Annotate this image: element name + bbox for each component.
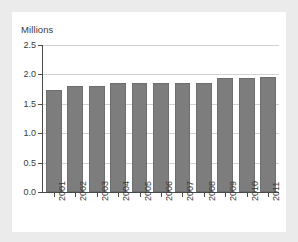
x-tick-label: 2003	[101, 181, 110, 201]
bar	[89, 86, 105, 192]
x-tick-mark	[182, 193, 183, 197]
x-tick-mark	[97, 193, 98, 197]
bar	[110, 83, 126, 192]
gridline	[43, 74, 279, 75]
y-axis-tick-labels: 0.00.51.01.52.02.5	[8, 0, 36, 242]
bar	[217, 78, 233, 192]
x-tick-label: 2001	[58, 181, 67, 201]
x-tick-mark	[140, 193, 141, 197]
y-tick-label: 2.5	[10, 41, 36, 50]
y-tick-label: 2.0	[10, 70, 36, 79]
x-tick-label: 2008	[208, 181, 217, 201]
bar	[132, 83, 148, 192]
y-tick-mark	[38, 192, 42, 193]
y-tick-mark	[38, 163, 42, 164]
x-tick-mark	[225, 193, 226, 197]
x-tick-label: 2004	[122, 181, 131, 201]
y-tick-label: 1.5	[10, 100, 36, 109]
x-tick-label: 2010	[251, 181, 260, 201]
x-tick-mark	[161, 193, 162, 197]
y-tick-mark	[38, 74, 42, 75]
x-tick-mark	[75, 193, 76, 197]
x-tick-mark	[204, 193, 205, 197]
x-tick-mark	[54, 193, 55, 197]
x-tick-label: 2009	[229, 181, 238, 201]
x-tick-label: 2005	[144, 181, 153, 201]
x-tick-mark	[268, 193, 269, 197]
y-tick-label: 0.5	[10, 159, 36, 168]
gridline	[43, 45, 279, 46]
bar	[175, 83, 191, 192]
x-tick-label: 2007	[186, 181, 195, 201]
bar	[153, 83, 169, 192]
y-tick-mark	[38, 133, 42, 134]
y-axis-line	[42, 45, 43, 193]
bar	[239, 78, 255, 192]
plot-area	[43, 45, 279, 192]
x-tick-label: 2011	[272, 182, 281, 201]
y-tick-label: 1.0	[10, 129, 36, 138]
y-tick-label: 0.0	[10, 188, 36, 197]
bar	[67, 86, 83, 192]
x-tick-label: 2006	[165, 181, 174, 201]
y-tick-mark	[38, 104, 42, 105]
bar	[260, 77, 276, 192]
y-tick-mark	[38, 45, 42, 46]
bar	[46, 90, 62, 192]
x-tick-mark	[247, 193, 248, 197]
x-tick-label: 2002	[79, 181, 88, 201]
chart-figure: Millions 0.00.51.01.52.02.5 200120022003…	[0, 0, 298, 242]
bar	[196, 83, 212, 192]
x-tick-mark	[118, 193, 119, 197]
